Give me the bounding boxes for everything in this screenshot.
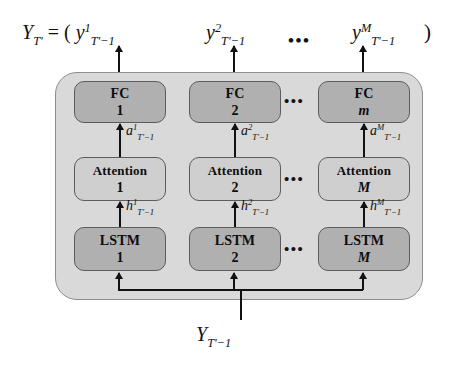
lstm-block-2-index: 2 <box>231 250 238 266</box>
attention-block-2-title: Attention <box>208 163 263 179</box>
lstm-to-attention-arrow-2 <box>234 202 236 227</box>
hidden-state-label-2: h2T'−1 <box>241 199 269 213</box>
fc-block-2-title: FC <box>225 86 244 102</box>
activation-label-2: a2T'−1 <box>241 124 269 138</box>
lstm-to-attention-arrow-1 <box>119 202 121 227</box>
hidden-state-label-1: h1T'−1 <box>126 199 154 213</box>
activation-label-m: aMT'−1 <box>370 124 401 138</box>
fc-row-ellipsis: ••• <box>284 93 304 110</box>
output-arrow-m <box>362 46 364 74</box>
attention-block-m[interactable]: Attention M <box>318 157 410 201</box>
lstm-row-ellipsis: ••• <box>284 241 304 258</box>
fc-block-m-index: m <box>358 103 369 119</box>
attention-block-1[interactable]: Attention 1 <box>74 157 166 201</box>
lstm-block-m[interactable]: LSTM M <box>318 227 410 271</box>
fc-block-1-title: FC <box>110 86 129 102</box>
lstm-block-1-index: 1 <box>116 250 123 266</box>
fc-block-m[interactable]: FC m <box>318 81 410 123</box>
activation-label-1: a1T'−1 <box>126 124 154 138</box>
attention-block-m-title: Attention <box>337 163 392 179</box>
output-ellipsis: ••• <box>288 32 310 49</box>
decoder-column-1: FC 1 a1T'−1 Attention 1 h1T'−1 LSTM 1 <box>74 73 166 299</box>
lstm-block-1-title: LSTM <box>100 233 140 249</box>
architecture-diagram: YT' = ( y1T'−1 y2T'−1 ••• yMT'−1 ) FC 1 … <box>0 0 469 368</box>
lstm-block-2[interactable]: LSTM 2 <box>189 227 281 271</box>
attention-block-1-index: 1 <box>116 180 123 196</box>
decoder-column-2: FC 2 a2T'−1 Attention 2 h2T'−1 LSTM 2 <box>189 73 281 299</box>
input-arrow-2 <box>233 273 235 290</box>
lstm-block-1[interactable]: LSTM 1 <box>74 227 166 271</box>
hidden-state-label-m: hMT'−1 <box>370 199 401 213</box>
attention-to-fc-arrow-1 <box>119 124 121 157</box>
fc-block-2-index: 2 <box>231 103 238 119</box>
lstm-to-attention-arrow-m <box>363 202 365 227</box>
output-term-2: y2T'−1 <box>206 22 245 42</box>
decoder-column-m: FC m aMT'−1 Attention M hMT'−1 LSTM M <box>318 73 410 299</box>
output-term-m: yMT'−1 <box>352 22 395 42</box>
input-arrow-m <box>362 273 364 290</box>
attention-block-2[interactable]: Attention 2 <box>189 157 281 201</box>
input-arrow-1 <box>118 273 120 290</box>
output-arrow-1 <box>118 46 120 74</box>
fc-block-2[interactable]: FC 2 <box>189 81 281 123</box>
output-right-paren: ) <box>424 22 431 43</box>
input-label: YT'−1 <box>196 324 231 344</box>
input-bus-stem <box>240 289 242 320</box>
attention-block-2-index: 2 <box>231 180 238 196</box>
fc-block-m-title: FC <box>354 86 373 102</box>
lstm-block-m-index: M <box>358 250 371 266</box>
fc-block-1[interactable]: FC 1 <box>74 81 166 123</box>
output-arrow-2 <box>233 46 235 74</box>
attention-block-1-title: Attention <box>93 163 148 179</box>
attention-to-fc-arrow-2 <box>234 124 236 157</box>
lstm-block-2-title: LSTM <box>215 233 255 249</box>
attention-to-fc-arrow-m <box>363 124 365 157</box>
lstm-block-m-title: LSTM <box>344 233 384 249</box>
attention-block-m-index: M <box>358 180 371 196</box>
output-lhs-label: YT' = ( y1T'−1 <box>22 22 115 42</box>
decoder-module-container: FC 1 a1T'−1 Attention 1 h1T'−1 LSTM 1 <box>55 72 423 300</box>
fc-block-1-index: 1 <box>116 103 123 119</box>
attention-row-ellipsis: ••• <box>284 171 304 188</box>
